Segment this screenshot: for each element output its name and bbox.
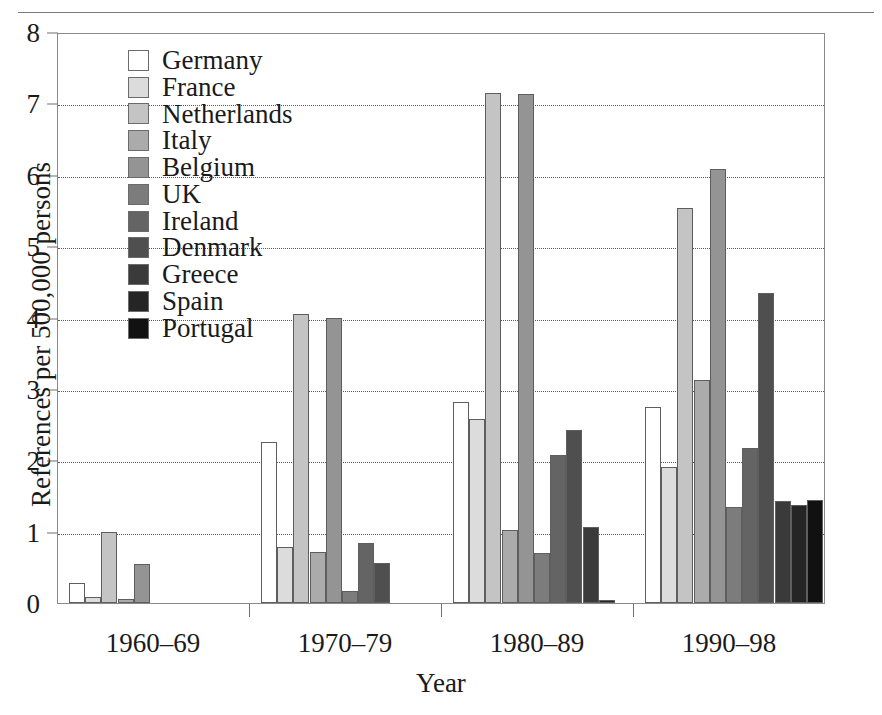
legend-item-label: Greece (162, 261, 238, 288)
bar (583, 527, 599, 603)
legend-swatch-icon (128, 77, 149, 98)
legend-item-label: Netherlands (162, 101, 292, 128)
bar (485, 93, 501, 603)
legend-item-label: Spain (162, 288, 224, 315)
bar (645, 407, 661, 603)
x-axis-tick-labels: 1960–691970–791980–891990–98 (57, 627, 825, 661)
bar (661, 467, 677, 603)
bar (599, 600, 615, 603)
x-axis-tick-label: 1960–69 (106, 627, 201, 659)
legend-item-label: Portugal (162, 315, 254, 342)
legend-item-label: Denmark (162, 234, 262, 261)
bar (101, 532, 117, 603)
legend-swatch-icon (128, 50, 149, 71)
bar (277, 547, 293, 603)
legend-item-label: Ireland (162, 208, 238, 235)
x-axis-tick-label: 1970–79 (298, 627, 393, 659)
bar (69, 583, 85, 603)
bar (518, 94, 534, 603)
bar (293, 314, 309, 603)
bar (310, 552, 326, 603)
bar (566, 430, 582, 603)
bar (326, 318, 342, 603)
bar (261, 442, 277, 603)
bar (726, 507, 742, 603)
x-axis-tick-mark (249, 604, 250, 617)
top-divider (18, 12, 874, 13)
bar (807, 500, 823, 603)
bar (469, 419, 485, 603)
legend-item: Ireland (128, 208, 348, 235)
bar (502, 530, 518, 603)
bar (758, 293, 774, 603)
legend-swatch-icon (128, 211, 149, 232)
legend: GermanyFranceNetherlandsItalyBelgiumUKIr… (128, 47, 348, 342)
bar (791, 505, 807, 603)
legend-swatch-icon (128, 318, 149, 339)
legend-swatch-icon (128, 184, 149, 205)
legend-item-label: France (162, 74, 235, 101)
bar (118, 599, 134, 603)
bar (775, 501, 791, 603)
bar (710, 169, 726, 603)
chart-figure: 012345678 References per 500,000 persons… (0, 0, 882, 715)
legend-swatch-icon (128, 264, 149, 285)
y-axis-title: References per 500,000 persons (26, 55, 57, 615)
bar (694, 380, 710, 603)
legend-swatch-icon (128, 157, 149, 178)
bar (453, 402, 469, 603)
legend-item: France (128, 74, 348, 101)
legend-item-label: Belgium (162, 154, 255, 181)
legend-item: Belgium (128, 154, 348, 181)
bar (550, 455, 566, 603)
legend-item: UK (128, 181, 348, 208)
legend-swatch-icon (128, 103, 149, 124)
x-axis-tick-mark (441, 604, 442, 617)
legend-swatch-icon (128, 130, 149, 151)
legend-item: Denmark (128, 235, 348, 262)
legend-item-label: UK (162, 181, 201, 208)
legend-item-label: Germany (162, 47, 262, 74)
legend-item: Greece (128, 261, 348, 288)
bar (358, 543, 374, 603)
legend-item: Germany (128, 47, 348, 74)
bar (742, 448, 758, 603)
x-axis-tick-marks (57, 604, 825, 618)
legend-item: Netherlands (128, 101, 348, 128)
legend-item: Spain (128, 288, 348, 315)
x-axis-tick-mark (633, 604, 634, 617)
x-axis-tick-label: 1990–98 (682, 627, 777, 659)
legend-item: Italy (128, 127, 348, 154)
y-axis-tick-label: 8 (6, 20, 40, 47)
bar (134, 564, 150, 603)
bar (534, 553, 550, 603)
legend-item: Portugal (128, 315, 348, 342)
bar (85, 597, 101, 603)
x-axis-title: Year (57, 668, 825, 699)
legend-item-label: Italy (162, 127, 211, 154)
bar (342, 591, 358, 603)
x-axis-tick-label: 1980–89 (490, 627, 585, 659)
legend-swatch-icon (128, 237, 149, 258)
legend-swatch-icon (128, 291, 149, 312)
bar (677, 208, 693, 603)
y-axis-tick-mark (47, 33, 58, 34)
bar (374, 563, 390, 603)
